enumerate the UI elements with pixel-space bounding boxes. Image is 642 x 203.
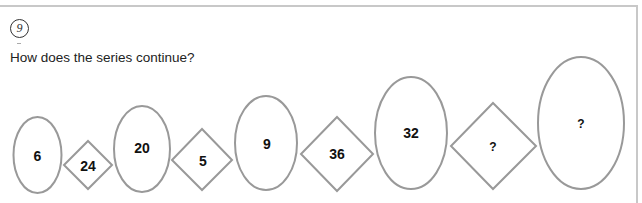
- series-item-7: 32: [375, 77, 447, 189]
- series-figure: 6 24 20 5 9 36 32 ? ?: [0, 0, 642, 203]
- series-label: 9: [263, 136, 271, 152]
- series-label: 20: [134, 140, 150, 156]
- series-label: 24: [80, 158, 96, 174]
- series-item-5: 9: [235, 96, 297, 190]
- series-label: 36: [329, 146, 345, 162]
- series-item-2: 24: [64, 141, 112, 189]
- series-item-1: 6: [14, 117, 62, 193]
- series-label-unknown: ?: [489, 140, 496, 154]
- series-item-4: 5: [172, 129, 232, 190]
- series-label-unknown: ?: [577, 117, 584, 131]
- series-item-9-unknown: ?: [538, 57, 624, 189]
- series-item-6: 36: [301, 117, 373, 191]
- series-item-8-unknown: ?: [451, 103, 536, 189]
- series-label: 6: [34, 148, 42, 164]
- series-item-3: 20: [114, 106, 170, 192]
- series-label: 5: [199, 153, 207, 169]
- series-label: 32: [403, 125, 419, 141]
